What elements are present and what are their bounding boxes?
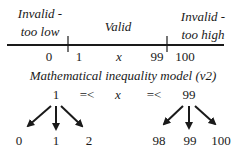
upper-value-98: 98: [153, 134, 166, 147]
region-too-low-line1: Invalid -: [18, 7, 62, 20]
inequality-var: x: [115, 88, 121, 101]
upper-value-99: 99: [184, 134, 197, 147]
arrow-99-to-100: [195, 106, 215, 124]
arrow-1-to-0: [28, 106, 51, 126]
upper-value-100: 100: [211, 134, 231, 147]
lower-value-0: 0: [16, 134, 23, 147]
inequality-upper: 99: [183, 88, 196, 101]
tick-label-0: 0: [46, 50, 53, 63]
inequality-lower: 1: [53, 88, 60, 101]
inequality-op1: =<: [80, 88, 95, 101]
tick-label-1: 1: [76, 50, 83, 63]
arrow-99-to-98: [164, 106, 183, 124]
region-too-high-line1: Invalid -: [181, 10, 225, 23]
arrow-1-to-2: [61, 106, 82, 126]
inequality-op2: =<: [147, 88, 162, 101]
tick-label-99: 99: [151, 50, 164, 63]
tick-label-x: x: [116, 50, 122, 63]
lower-value-2: 2: [86, 134, 93, 147]
caption: Mathematical inequality model (v2): [30, 69, 217, 82]
region-valid: Valid: [105, 20, 132, 33]
tick-label-100: 100: [175, 50, 195, 63]
region-too-low-line2: too low: [21, 25, 60, 38]
region-too-high-line2: too high: [182, 28, 225, 41]
lower-value-1: 1: [53, 134, 60, 147]
